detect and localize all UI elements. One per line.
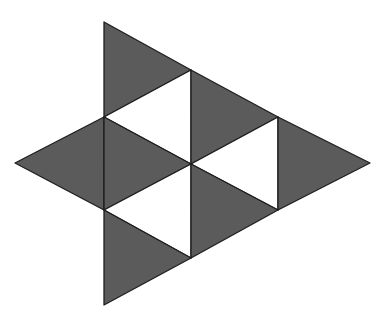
- triangle-right-tip: [278, 117, 370, 210]
- triangle-left-tip: [15, 117, 104, 210]
- triangle-layer: [15, 22, 370, 305]
- triangle-net-diagram: [0, 0, 385, 317]
